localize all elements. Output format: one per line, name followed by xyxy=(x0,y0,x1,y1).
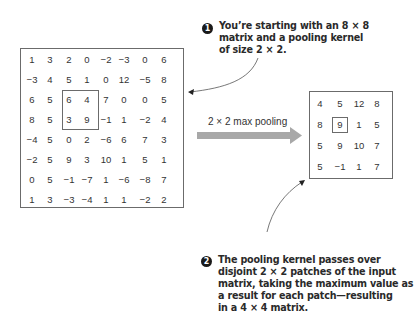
output-cell: 10 xyxy=(349,139,369,153)
output-cell: 5 xyxy=(310,160,330,174)
output-matrix: 451288915591075−117 xyxy=(309,91,393,179)
output-cell: 9 xyxy=(330,139,350,153)
pooling-label: 2 × 2 max pooling xyxy=(208,116,287,127)
output-cell: 5 xyxy=(330,97,350,111)
annotation-2-pointer-icon xyxy=(267,180,305,232)
output-cell: 7 xyxy=(367,160,387,174)
output-cell: 8 xyxy=(310,118,330,132)
output-cell: 1 xyxy=(349,118,369,132)
annotation-1-badge: 1 xyxy=(202,23,213,34)
annotation-1-pointer-icon xyxy=(188,58,258,95)
output-cell: 5 xyxy=(310,139,330,153)
annotation-2-badge: 2 xyxy=(201,256,212,267)
output-cell: 4 xyxy=(310,97,330,111)
annotation-1-text: You’re starting with an 8 × 8 matrix and… xyxy=(219,20,369,56)
output-cell: 8 xyxy=(367,97,387,111)
highlighted-output-cell xyxy=(332,117,348,133)
output-cell: 1 xyxy=(349,160,369,174)
output-cell: 12 xyxy=(349,97,369,111)
annotation-2-text: The pooling kernel passes over disjoint … xyxy=(218,254,413,314)
output-cell: 7 xyxy=(367,139,387,153)
output-cell: −1 xyxy=(330,160,350,174)
output-cell: 5 xyxy=(367,118,387,132)
max-pooling-arrow-icon xyxy=(197,127,302,144)
